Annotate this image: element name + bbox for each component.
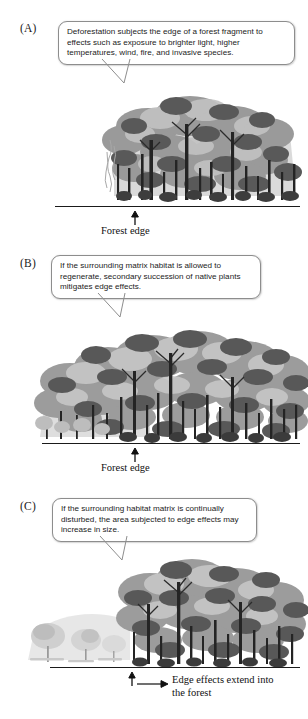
- panel-c: (C) If the surrounding habitat matrix is…: [0, 492, 308, 719]
- panel-c-label: (C): [20, 500, 36, 512]
- panel-c-caption-line1: Edge effects extend into: [172, 674, 302, 687]
- panel-c-ground-line: [50, 667, 300, 668]
- panel-c-caption-line2: the forest: [172, 687, 302, 700]
- panel-c-callout-text: If the surrounding habitat matrix is con…: [61, 504, 249, 536]
- panel-b-callout: If the surrounding matrix habitat is all…: [51, 255, 261, 299]
- panel-a-caption: Forest edge: [101, 225, 150, 238]
- forest-edge-effects-figure: (A) Deforestation subjects the edge of a…: [0, 0, 308, 719]
- panel-b-up-arrow-icon: [128, 448, 144, 462]
- panel-c-right-arrow-icon: [137, 679, 171, 689]
- panel-b: (B) If the surrounding matrix habitat is…: [0, 247, 308, 489]
- panel-b-ground-line: [42, 443, 300, 444]
- panel-a-label: (A): [20, 22, 37, 34]
- panel-c-callout: If the surrounding habitat matrix is con…: [52, 498, 257, 542]
- panel-a-forest-scene: [0, 68, 308, 208]
- panel-a-up-arrow-icon: [128, 211, 144, 225]
- panel-b-caption: Forest edge: [101, 462, 150, 475]
- panel-a: (A) Deforestation subjects the edge of a…: [0, 0, 308, 245]
- panel-c-forest-scene: [0, 548, 308, 670]
- panel-b-callout-text: If the surrounding matrix habitat is all…: [60, 261, 253, 293]
- panel-a-callout-text: Deforestation subjects the edge of a for…: [67, 27, 287, 59]
- panel-b-forest-scene: [0, 305, 308, 447]
- panel-a-callout: Deforestation subjects the edge of a for…: [58, 21, 295, 65]
- panel-a-ground-line: [55, 206, 300, 207]
- panel-b-label: (B): [20, 257, 36, 269]
- panel-c-caption: Edge effects extend into the forest: [172, 674, 302, 699]
